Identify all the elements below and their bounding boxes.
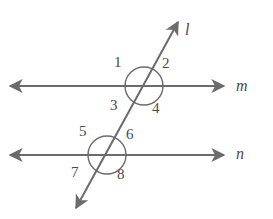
angle-label-6: 6 <box>126 127 134 142</box>
geometry-figure: 1 2 3 4 5 6 7 8 l m n <box>0 0 273 219</box>
angle-label-4: 4 <box>152 101 160 116</box>
angle-label-2: 2 <box>162 56 170 71</box>
line-label-l: l <box>185 22 189 38</box>
angle-label-7: 7 <box>71 165 79 180</box>
angle-label-8: 8 <box>117 167 125 182</box>
line-label-n: n <box>236 146 244 162</box>
angle-label-5: 5 <box>79 124 87 139</box>
line-label-m: m <box>236 78 248 94</box>
geometry-canvas <box>0 0 273 219</box>
angle-label-3: 3 <box>110 98 118 113</box>
angle-label-1: 1 <box>114 55 122 70</box>
transversal-line-l <box>76 22 178 208</box>
